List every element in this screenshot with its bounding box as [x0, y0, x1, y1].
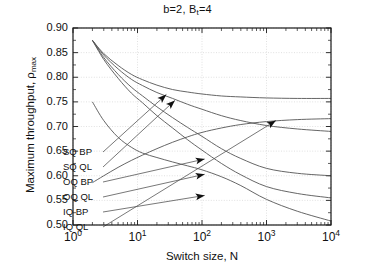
legend-arrowhead [195, 156, 205, 165]
legend-label-sq-bp: SQ BP [63, 147, 92, 157]
legend-label-sq-ql: SQ QL [63, 162, 92, 172]
legend-leader-lines [103, 92, 278, 227]
legend-arrowhead [195, 192, 205, 200]
series-line-sq-ql [92, 40, 331, 131]
legend-arrowhead [195, 171, 205, 180]
series-line-oq-ql [92, 40, 331, 198]
series-line-oq-bp [92, 40, 331, 175]
data-series-group [92, 40, 331, 221]
legend-label-oq-bp: OQ BP [63, 177, 93, 187]
chart-figure: b=2, Bt=4 Maximum throughput, ρmax Switc… [0, 0, 375, 270]
legend-label-oq-ql: OQ QL [63, 192, 93, 202]
plot-area [0, 0, 375, 270]
legend-label-iq-bp: IQ BP [63, 207, 88, 217]
legend-label-iq-ql: IQ QL [63, 222, 88, 232]
